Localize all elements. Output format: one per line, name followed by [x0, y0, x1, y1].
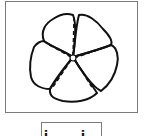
petal-left	[30, 41, 73, 89]
midline-left	[46, 43, 71, 57]
flower-diagram	[6, 2, 139, 114]
figure-frame	[5, 1, 138, 113]
answer-option-label: i i	[42, 129, 101, 136]
petal-top-left	[43, 14, 76, 57]
flower-center	[70, 55, 76, 61]
answer-option-box[interactable]: i i	[41, 122, 102, 136]
